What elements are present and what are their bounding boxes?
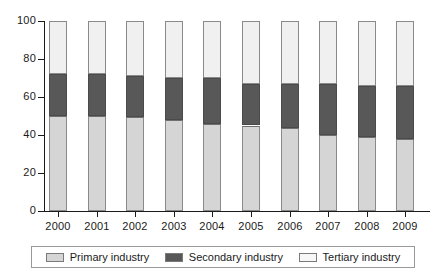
bar-segment-primary (281, 128, 299, 211)
bar-segment-secondary (242, 84, 260, 126)
bar-2009 (396, 21, 414, 211)
x-tick-2008 (367, 211, 368, 217)
bar-segment-primary (126, 117, 144, 211)
legend-label: Secondary industry (189, 251, 283, 263)
y-tick-label: 20 (2, 167, 36, 178)
x-tick-label: 2003 (154, 220, 194, 232)
y-tick-label: 0 (2, 205, 36, 216)
chart-legend: Primary industrySecondary industryTertia… (31, 246, 415, 268)
x-tick-label: 2006 (270, 220, 310, 232)
bar-segment-primary (396, 139, 414, 211)
y-tick-label: 40 (2, 129, 36, 140)
bar-segment-tertiary (49, 21, 67, 74)
legend-swatch-icon (299, 253, 317, 262)
plot-area: 020406080100 200020012002200320042005200… (0, 0, 446, 232)
x-axis-line (44, 211, 430, 212)
bar-segment-secondary (281, 84, 299, 129)
bar-segment-tertiary (88, 21, 106, 74)
bar-segment-secondary (396, 86, 414, 139)
x-tick-2005 (251, 211, 252, 217)
y-tick-40 (38, 135, 44, 136)
bar-segment-primary (165, 120, 183, 211)
x-tick-2000 (58, 211, 59, 217)
bar-2002 (126, 21, 144, 211)
y-tick-0 (38, 211, 44, 212)
legend-item: Primary industry (46, 251, 149, 263)
x-tick-label: 2007 (308, 220, 348, 232)
bar-2001 (88, 21, 106, 211)
y-axis-tick-labels: 020406080100 (0, 0, 36, 232)
x-tick-2009 (405, 211, 406, 217)
x-tick-label: 2002 (115, 220, 155, 232)
x-tick-label: 2001 (77, 220, 117, 232)
y-tick-label: 80 (2, 53, 36, 64)
x-tick-2001 (97, 211, 98, 217)
x-tick-2002 (135, 211, 136, 217)
y-tick-100 (38, 21, 44, 22)
legend-label: Tertiary industry (323, 251, 401, 263)
bar-segment-primary (242, 126, 260, 212)
bar-2006 (281, 21, 299, 211)
bar-2000 (49, 21, 67, 211)
x-tick-2006 (290, 211, 291, 217)
bar-segment-tertiary (126, 21, 144, 76)
bar-2008 (358, 21, 376, 211)
bar-segment-secondary (88, 74, 106, 116)
y-tick-label: 60 (2, 91, 36, 102)
bar-segment-secondary (358, 86, 376, 137)
bar-segment-primary (88, 116, 106, 211)
x-tick-label: 2009 (385, 220, 425, 232)
bar-segment-secondary (203, 78, 221, 124)
bar-segment-tertiary (203, 21, 221, 78)
bar-2004 (203, 21, 221, 211)
y-tick-60 (38, 97, 44, 98)
y-tick-20 (38, 173, 44, 174)
bar-segment-tertiary (358, 21, 376, 86)
bar-2003 (165, 21, 183, 211)
legend-label: Primary industry (70, 251, 149, 263)
bar-2007 (319, 21, 337, 211)
bar-segment-tertiary (396, 21, 414, 86)
x-tick-label: 2008 (347, 220, 387, 232)
y-tick-80 (38, 59, 44, 60)
bar-segment-primary (49, 116, 67, 211)
legend-swatch-icon (165, 253, 183, 262)
x-tick-2003 (174, 211, 175, 217)
legend-swatch-icon (46, 253, 64, 262)
legend-item: Tertiary industry (299, 251, 401, 263)
x-tick-2004 (212, 211, 213, 217)
bar-segment-secondary (319, 84, 337, 135)
bar-segment-secondary (49, 74, 67, 116)
y-axis-line (44, 21, 45, 211)
bar-segment-secondary (165, 78, 183, 120)
bar-segment-tertiary (319, 21, 337, 84)
chart-figure: 020406080100 200020012002200320042005200… (0, 0, 446, 279)
bar-segment-primary (319, 135, 337, 211)
bar-segment-tertiary (242, 21, 260, 84)
bar-segment-secondary (126, 76, 144, 117)
x-tick-label: 2000 (38, 220, 78, 232)
x-tick-2007 (328, 211, 329, 217)
legend-item: Secondary industry (165, 251, 283, 263)
bar-2005 (242, 21, 260, 211)
y-tick-label: 100 (2, 15, 36, 26)
bar-segment-tertiary (281, 21, 299, 84)
bar-segment-primary (203, 124, 221, 211)
bar-segment-tertiary (165, 21, 183, 78)
x-tick-label: 2005 (231, 220, 271, 232)
x-tick-label: 2004 (192, 220, 232, 232)
bar-segment-primary (358, 137, 376, 211)
